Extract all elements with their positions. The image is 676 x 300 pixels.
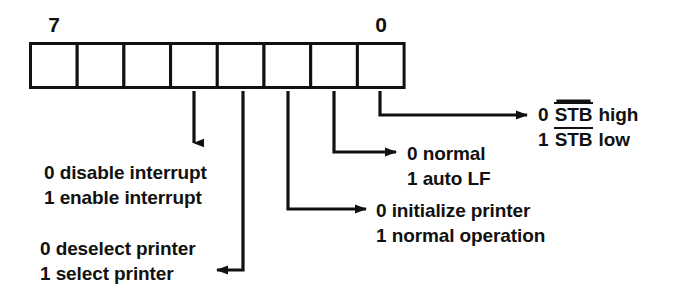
annotation-bit1-auto-lf: 0 normal 1 auto LF <box>407 141 491 191</box>
bit-field-diagram: 7 0 0 disable interrupt 1 enable interru… <box>0 0 676 300</box>
annotation-bit4-interrupt: 0 disable interrupt 1 enable interrupt <box>44 160 207 210</box>
annotation-bit3-line-1: 1 select printer <box>40 261 196 286</box>
annotation-bit0-line-0: 0 STB high <box>538 102 638 127</box>
annotation-bit2-line-1: 1 normal operation <box>376 223 545 248</box>
strobe-low-suffix: low <box>593 129 630 150</box>
annotation-bit4-line-1: 1 enable interrupt <box>44 185 207 210</box>
annotation-bit1-line-0: 0 normal <box>407 141 491 166</box>
annotation-bit0-line-1: 1 STB low <box>538 127 638 152</box>
strobe-high-prefix: 0 <box>538 104 554 125</box>
leader-bit3 <box>217 91 243 270</box>
register-cell-0 <box>357 44 404 88</box>
annotation-bit2-line-0: 0 initialize printer <box>376 198 545 223</box>
strobe-low-prefix: 1 <box>538 129 554 150</box>
strobe-high-suffix: high <box>593 104 638 125</box>
register-cell-3 <box>217 44 264 88</box>
leader-bit1 <box>334 91 396 152</box>
annotation-bit1-line-1: 1 auto LF <box>407 166 491 191</box>
annotation-bit0-strobe: 0 STB high 1 STB low <box>538 102 638 152</box>
annotation-bit2-initialize-printer: 0 initialize printer 1 normal operation <box>376 198 545 248</box>
annotation-bit4-line-0: 0 disable interrupt <box>44 160 207 185</box>
register-cell-7 <box>31 44 78 88</box>
register-cell-5 <box>124 44 171 88</box>
strobe-signal-name-overlined: STB <box>554 102 594 126</box>
register-cell-1 <box>311 44 358 88</box>
register-cell-4 <box>171 44 218 88</box>
bit-index-label-msb: 7 <box>34 14 74 35</box>
annotation-bit3-select-printer: 0 deselect printer 1 select printer <box>40 236 196 286</box>
annotation-bit3-line-0: 0 deselect printer <box>40 236 196 261</box>
bit-index-label-lsb: 0 <box>361 14 401 35</box>
strobe-signal-name-overlined-2: STB <box>554 127 594 151</box>
leader-bit2 <box>288 91 366 209</box>
leader-bit0 <box>380 91 527 115</box>
register-cell-2 <box>264 44 311 88</box>
register-box-row <box>31 44 405 88</box>
register-cell-6 <box>77 44 124 88</box>
